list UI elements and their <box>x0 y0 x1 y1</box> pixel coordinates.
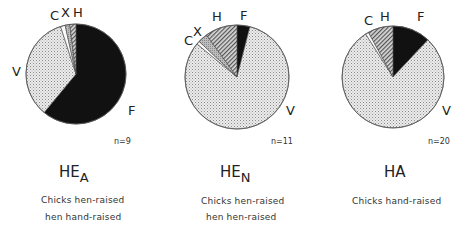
slice-label-v: V <box>442 104 451 117</box>
sample-size: n=9 <box>114 137 131 146</box>
slice-label-f: F <box>417 10 424 23</box>
pie-panel-ha: C H F V n=20 HA Chicks hand-raised <box>300 0 450 233</box>
sample-size: n=20 <box>428 137 450 146</box>
chart-title: HEA <box>59 163 89 185</box>
title-subscript: A <box>80 170 89 185</box>
slice-label-c: C <box>364 14 373 27</box>
slice-label-c: C <box>50 9 59 22</box>
slice-label-v: V <box>12 65 21 78</box>
title-main: HA <box>384 163 406 181</box>
pie-chart-hen <box>150 0 300 140</box>
caption-line-1: Chicks hand-raised <box>352 196 441 206</box>
slice-label-f: F <box>240 9 247 22</box>
title-main: HE <box>220 163 241 181</box>
chart-title: HEN <box>220 163 251 185</box>
pie-chart-ha <box>300 0 449 140</box>
title-main: HE <box>59 163 80 181</box>
slice-label-h: H <box>73 6 83 19</box>
chart-title: HA <box>384 163 406 185</box>
pie-panel-hea: C X H V F n=9 HEA Chicks hen-raised hen … <box>0 0 150 233</box>
caption-line-2: hen hand-raised <box>45 212 121 222</box>
caption-line-1: Chicks hen-raised <box>201 196 284 206</box>
slice-label-f: F <box>128 104 135 117</box>
pie-panel-hen: C X H F V n=11 HEN Chicks hen-raised hen… <box>150 0 300 233</box>
sample-size: n=11 <box>271 137 293 146</box>
slice-label-x: X <box>193 25 202 38</box>
slice-label-c: C <box>184 34 193 47</box>
slice-label-v: V <box>286 104 295 117</box>
caption-line-2: hen hen-raised <box>206 212 276 222</box>
title-subscript: N <box>241 170 251 185</box>
pie-chart-hea <box>0 0 150 140</box>
slice-label-h: H <box>380 10 390 23</box>
slice-label-x: X <box>61 6 70 19</box>
caption-line-1: Chicks hen-raised <box>41 195 124 205</box>
slice-label-h: H <box>212 10 222 23</box>
